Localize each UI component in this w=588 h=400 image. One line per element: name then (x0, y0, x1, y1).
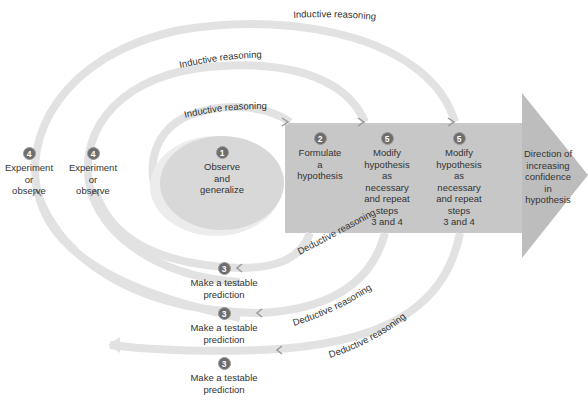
arrowhead-left-icon (108, 337, 120, 353)
step-modify-2: 5 Modify hypothesis as necessary and rep… (428, 132, 490, 228)
step-experiment-outer: 4 Experiment or observe (2, 147, 56, 197)
step-badge-1: 1 (216, 146, 229, 159)
step-observe: 1 Observe and generalize (182, 146, 262, 196)
step-badge-5: 5 (381, 132, 394, 145)
step-badge-5: 5 (453, 132, 466, 145)
step-badge-4: 4 (23, 147, 36, 160)
step-predict-3: 3 Make a testable prediction (184, 357, 264, 395)
step-badge-4: 4 (87, 147, 100, 160)
deductive-label-2: Deductive reasoning (327, 310, 407, 359)
scientific-method-diagram: Inductive reasoning Inductive reasoning … (0, 0, 588, 400)
step-badge-2: 2 (314, 132, 327, 145)
step-predict-2: 3 Make a testable prediction (184, 307, 264, 345)
deductive-arc-3-back (110, 345, 260, 351)
step-experiment-inner: 4 Experiment or observe (66, 147, 120, 197)
step-predict-1: 3 Make a testable prediction (184, 262, 264, 300)
step-badge-3: 3 (218, 307, 231, 320)
step-formulate: 2 Formulate a hypothesis (290, 132, 350, 182)
step-modify-1: 5 Modify hypothesis as necessary and rep… (356, 132, 418, 228)
step-badge-3: 3 (218, 262, 231, 275)
inductive-label-inner: Inductive reasoning (183, 100, 267, 120)
direction-label: Direction of increasing confidence in hy… (516, 148, 580, 206)
inductive-label-outer: Inductive reasoning (293, 8, 377, 22)
step-badge-3: 3 (218, 357, 231, 370)
